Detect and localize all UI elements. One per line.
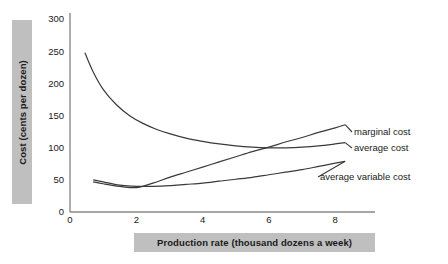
y-tick-label: 300 (38, 13, 64, 24)
curve-label-average-variable-cost: average variable cost (320, 171, 410, 182)
x-tick-label: 6 (260, 214, 278, 225)
axes (70, 13, 375, 212)
y-tick-label: 200 (38, 78, 64, 89)
y-axis-title: Cost (cents per dozen) (12, 20, 32, 204)
x-tick-label: 0 (61, 214, 79, 225)
x-tick-label: 2 (127, 214, 145, 225)
chart-figure: Cost (cents per dozen) Production rate (… (0, 0, 448, 264)
y-tick-label: 50 (38, 174, 64, 185)
x-axis-title-text: Production rate (thousand dozens a week) (157, 237, 352, 248)
curve-marginal-cost (93, 125, 345, 188)
curve-average-cost (85, 53, 345, 148)
y-tick-label: 100 (38, 142, 64, 153)
curve-label-average-cost: average cost (354, 142, 408, 153)
curve-label-marginal-cost: marginal cost (354, 126, 411, 137)
x-tick-label: 4 (194, 214, 212, 225)
x-tick-label: 8 (326, 214, 344, 225)
leader-line (345, 143, 352, 148)
y-axis-title-text: Cost (cents per dozen) (17, 60, 28, 165)
curve-average-variable-cost (93, 161, 345, 186)
y-tick-label: 150 (38, 110, 64, 121)
x-axis-title: Production rate (thousand dozens a week) (134, 233, 375, 252)
y-tick-label: 250 (38, 46, 64, 57)
label-leader-lines (318, 125, 352, 177)
curve-group (85, 53, 345, 188)
leader-line (345, 125, 352, 132)
